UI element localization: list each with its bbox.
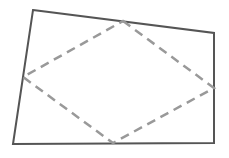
quadrilateral-diagram bbox=[0, 0, 229, 158]
midpoint-parallelogram bbox=[23, 21, 214, 143]
outer-quadrilateral bbox=[13, 10, 214, 144]
